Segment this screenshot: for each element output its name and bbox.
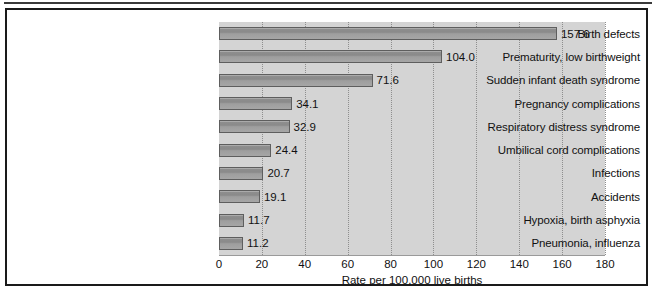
x-tick-label: 0 [216,258,222,270]
bar-value-label: 71.6 [377,74,399,86]
bar-and-value: 104.0 [219,45,475,68]
x-axis-title: Rate per 100,000 live births [219,274,605,286]
bar-and-value: 20.7 [219,162,290,185]
x-tick-label: 180 [595,258,614,270]
bar-row[interactable]: Accidents19.1 [7,185,646,208]
category-label: Prematurity, low birthweight [446,51,646,63]
x-tick-label: 20 [255,258,268,270]
bar-value-label: 157.6 [561,28,590,40]
x-tick-label: 80 [384,258,397,270]
x-tick-label: 160 [553,258,572,270]
x-axis-ticks: 020406080100120140160180 [219,258,605,274]
bar-value-label: 34.1 [296,98,318,110]
bar-row[interactable]: Sudden infant death syndrome71.6 [7,69,646,92]
bar-and-value: 11.2 [219,232,269,255]
x-tick-label: 60 [341,258,354,270]
bar-row[interactable]: Prematurity, low birthweight104.0 [7,45,646,68]
bar-and-value: 71.6 [219,69,399,92]
bar[interactable] [219,144,271,157]
x-axis-line [219,255,605,256]
bar[interactable] [219,27,557,40]
bar-and-value: 19.1 [219,185,286,208]
bar[interactable] [219,167,263,180]
category-label: Sudden infant death syndrome [446,74,646,86]
bar[interactable] [219,190,260,203]
category-label: Umbilical cord complications [446,144,646,156]
bar-and-value: 24.4 [219,139,298,162]
bar-value-label: 32.9 [294,121,316,133]
bar-and-value: 11.7 [219,208,270,231]
x-tick-label: 120 [467,258,486,270]
x-tick-label: 140 [510,258,529,270]
bar[interactable] [219,237,243,250]
x-tick-label: 100 [424,258,443,270]
bar-value-label: 20.7 [267,167,289,179]
bar[interactable] [219,120,290,133]
bar[interactable] [219,50,442,63]
bar-value-label: 11.7 [248,214,270,226]
bar-row[interactable]: Infections20.7 [7,162,646,185]
top-rule [4,2,652,4]
category-label: Respiratory distress syndrome [446,121,646,133]
bar[interactable] [219,214,244,227]
bar-value-label: 24.4 [275,144,297,156]
bar-row[interactable]: Pregnancy complications34.1 [7,92,646,115]
bar-and-value: 32.9 [219,115,316,138]
bar-row[interactable]: Pneumonia, influenza11.2 [7,232,646,255]
bar-row[interactable]: Birth defects157.6 [7,22,646,45]
bar-row[interactable]: Hypoxia, birth asphyxia11.7 [7,208,646,231]
bar-value-label: 11.2 [247,237,269,249]
category-label: Hypoxia, birth asphyxia [446,214,646,226]
chart-figure-frame: Birth defects157.6Prematurity, low birth… [5,8,648,286]
bar-row[interactable]: Umbilical cord complications24.4 [7,139,646,162]
bar-and-value: 34.1 [219,92,319,115]
bar-value-label: 104.0 [446,51,475,63]
category-label: Accidents [446,191,646,203]
category-label: Pneumonia, influenza [446,237,646,249]
bar-value-label: 19.1 [264,191,286,203]
bar-row[interactable]: Respiratory distress syndrome32.9 [7,115,646,138]
bar[interactable] [219,74,373,87]
bar[interactable] [219,97,292,110]
x-tick-label: 40 [298,258,311,270]
category-label: Infections [446,167,646,179]
category-label: Pregnancy complications [446,98,646,110]
bar-and-value: 157.6 [219,22,590,45]
